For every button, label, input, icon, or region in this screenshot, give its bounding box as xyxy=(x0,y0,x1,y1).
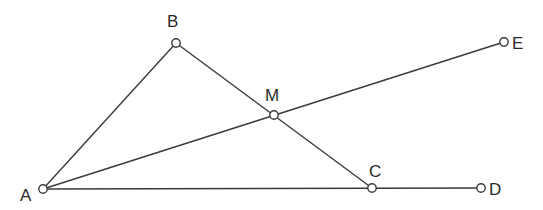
labels-group: ABMCDE xyxy=(20,12,523,205)
point-e-label: E xyxy=(512,34,523,53)
point-m-label: M xyxy=(265,86,279,105)
geometry-diagram: ABMCDE xyxy=(0,0,543,210)
point-a-label: A xyxy=(20,186,32,205)
point-e-marker xyxy=(500,38,508,46)
point-c-marker xyxy=(368,184,376,192)
segment-ad xyxy=(43,188,481,189)
point-d-marker xyxy=(477,184,485,192)
point-c-label: C xyxy=(369,162,381,181)
point-b-label: B xyxy=(167,12,178,31)
point-b-marker xyxy=(172,39,180,47)
point-m-marker xyxy=(270,111,278,119)
point-a-marker xyxy=(39,185,47,193)
point-d-label: D xyxy=(489,180,501,199)
